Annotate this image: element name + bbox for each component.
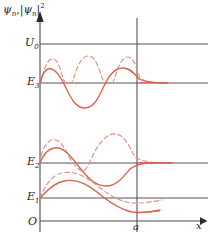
curve-psi2 xyxy=(40,148,172,186)
level-label-e1: E1 xyxy=(27,191,40,205)
curve-psi2-squared xyxy=(40,134,170,171)
curve-psi3-tail xyxy=(140,83,168,84)
well-edge-label: a xyxy=(133,222,139,232)
level-label-e3: E3 xyxy=(27,76,40,90)
x-axis-label: x xyxy=(196,221,202,231)
origin-label: O xyxy=(28,216,37,227)
level-label-u0: U0 xyxy=(25,37,39,51)
level-label-e2: E2 xyxy=(27,156,40,170)
y-axis-label: ψn,|ψn|2 xyxy=(3,3,45,18)
curve-psi2-tail xyxy=(139,163,172,164)
curve-psi3-squared xyxy=(40,56,168,83)
curve-psi3 xyxy=(40,68,168,108)
figure-root: ψn,|ψn|2 U0 E3 E2 E1 O a x xyxy=(0,0,210,238)
